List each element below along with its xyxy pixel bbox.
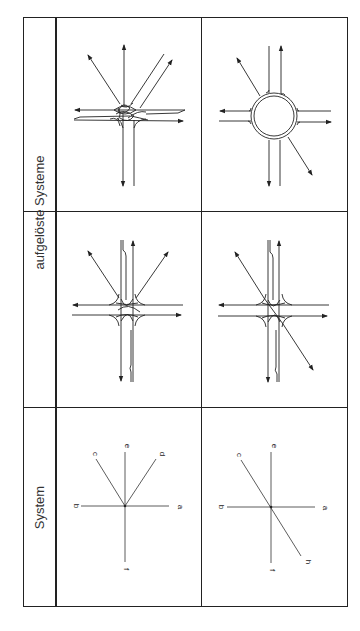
- system-diagram-diagonal: [227, 452, 315, 563]
- resolved-diagram-diagonal: [218, 240, 329, 382]
- system-diagram-diagonal-labels: b a c e f h: [217, 444, 330, 572]
- system-diagram-five-leg: [81, 452, 169, 562]
- label-e: e: [123, 444, 132, 449]
- label-b: b: [217, 505, 226, 510]
- diagram-canvas: b a c e d f b a c e f h: [0, 0, 360, 631]
- label-c: c: [91, 452, 100, 456]
- label-f: f: [122, 568, 131, 571]
- system-diagram-five-leg-labels: b a c e d f: [72, 444, 185, 571]
- label-c: c: [235, 453, 244, 457]
- resolved-diagram-roundabout: [219, 46, 331, 186]
- resolved-diagram-four-leg: [72, 240, 183, 382]
- label-b: b: [72, 504, 81, 509]
- label-d: d: [158, 452, 167, 456]
- label-f: f: [268, 569, 277, 572]
- label-a: a: [176, 505, 185, 510]
- label-a: a: [321, 506, 330, 511]
- label-h: h: [304, 560, 313, 564]
- resolved-diagram-five-leg: [74, 45, 185, 186]
- label-e: e: [270, 444, 279, 449]
